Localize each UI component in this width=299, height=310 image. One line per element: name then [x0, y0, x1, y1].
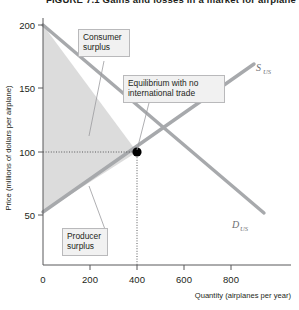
- y-tick-label-50: 50: [24, 210, 35, 221]
- demand-curve-label-sub: US: [240, 225, 249, 232]
- x-tick-label-600: 600: [176, 274, 192, 285]
- y-tick-label-150: 150: [19, 83, 35, 94]
- equilibrium-callout: Equilibrium with no international trade: [123, 75, 225, 103]
- x-tick-label-200: 200: [82, 274, 98, 285]
- supply-curve-label-sub: US: [263, 68, 272, 75]
- producer-callout-leader: [89, 186, 106, 232]
- x-tick-label-400: 400: [129, 274, 145, 285]
- figure-root: FIGURE 7.1 Gains and losses in a market …: [0, 0, 299, 310]
- y-tick-label-100: 100: [19, 147, 35, 158]
- demand-curve-label: D: [231, 219, 240, 230]
- chart-svg: 200 150 100 50 0 200 400 600 800 Quantit…: [0, 0, 299, 310]
- consumer-surplus-callout: Consumer surplus: [78, 29, 130, 57]
- y-axis-title: Price (millions of dollars per airplane): [4, 85, 13, 210]
- x-axis-title: Quantity (airplanes per year): [195, 291, 292, 300]
- y-tick-label-200: 200: [19, 20, 35, 31]
- producer-surplus-callout: Producer surplus: [62, 228, 108, 256]
- x-tick-label-0: 0: [40, 274, 45, 285]
- supply-curve-label: S: [256, 62, 261, 73]
- x-tick-label-800: 800: [223, 274, 239, 285]
